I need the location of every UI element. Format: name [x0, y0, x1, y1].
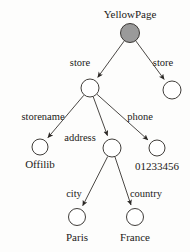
tree-edge	[93, 97, 107, 136]
edge-label-e-address-country: country	[130, 189, 162, 200]
node-label-phone: 01233456	[135, 161, 179, 172]
tree-node-phone	[149, 140, 165, 156]
tree-node-store1	[81, 79, 99, 97]
tree-edge	[115, 157, 131, 205]
node-label-root: YellowPage	[104, 9, 157, 20]
tree-graphics	[0, 0, 190, 252]
tree-node-address	[103, 139, 121, 157]
tree-diagram: storestorestorenameaddressphonecitycount…	[0, 0, 190, 252]
tree-node-city	[69, 209, 86, 226]
tree-node-store2	[163, 81, 181, 99]
tree-edge	[98, 41, 124, 77]
edge-layer	[48, 41, 164, 206]
node-label-city: Paris	[66, 232, 88, 243]
tree-node-storename	[32, 139, 48, 155]
tree-node-root	[121, 24, 140, 43]
edge-label-e-store1-phone: phone	[127, 112, 153, 123]
tree-edge	[83, 156, 108, 205]
node-label-storename: Offilib	[25, 159, 55, 170]
edge-label-e-address-city: city	[66, 189, 82, 200]
edge-label-e-store1-address: address	[64, 133, 96, 144]
edge-label-e-store1-storename: storename	[21, 112, 64, 123]
edge-label-e-root-store1: store	[70, 58, 90, 69]
tree-node-country	[127, 209, 144, 226]
edge-label-e-root-store2: store	[153, 58, 173, 69]
node-label-country: France	[120, 232, 150, 243]
